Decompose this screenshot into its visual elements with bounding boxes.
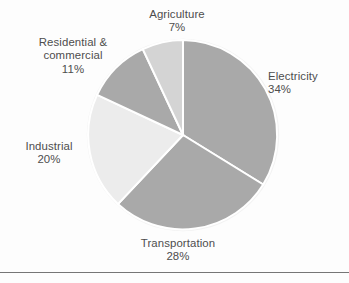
bottom-divider — [0, 272, 349, 273]
pie-label-residential-value: 11% — [21, 63, 125, 76]
pie-label-electricity-name: Electricity — [268, 70, 318, 82]
pie-label-residential-line1: Residential & — [39, 36, 107, 48]
pie-label-transportation-value: 28% — [123, 250, 233, 263]
pie-label-agriculture-name: Agriculture — [149, 8, 205, 20]
pie-chart-figure: Agriculture 7% Electricity 34% Transport… — [0, 0, 349, 283]
pie-label-residential-commercial: Residential & commercial 11% — [21, 36, 125, 76]
pie-label-electricity: Electricity 34% — [268, 70, 346, 97]
pie-label-industrial-name: Industrial — [25, 140, 72, 152]
pie-label-industrial-value: 20% — [8, 153, 90, 166]
pie-label-agriculture-value: 7% — [127, 21, 227, 34]
pie-label-transportation: Transportation 28% — [123, 237, 233, 264]
pie-label-transportation-name: Transportation — [141, 237, 215, 249]
pie-label-residential-line2: commercial — [21, 49, 125, 62]
pie-label-industrial: Industrial 20% — [8, 140, 90, 167]
pie-label-agriculture: Agriculture 7% — [127, 8, 227, 35]
pie-label-electricity-value: 34% — [268, 83, 346, 96]
